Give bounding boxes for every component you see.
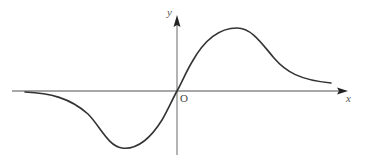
y-axis-label: y: [166, 6, 172, 18]
origin-label: O: [180, 92, 188, 104]
function-curve: [25, 28, 331, 148]
x-axis-label: x: [345, 92, 351, 104]
function-graph: y x O: [0, 0, 366, 160]
